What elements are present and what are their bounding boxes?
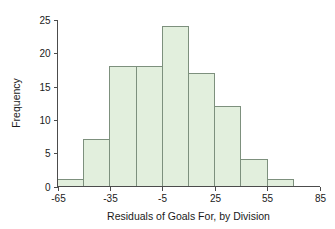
histogram-bar (267, 180, 293, 187)
y-tick-label: 15 (39, 82, 51, 93)
y-axis-title: Frequency (10, 77, 22, 127)
x-tick-label: -65 (51, 193, 66, 204)
histogram-bar (84, 140, 110, 187)
histogram-bar (162, 27, 188, 187)
x-tick-label: 55 (262, 193, 274, 204)
x-tick-label: 85 (315, 193, 327, 204)
histogram-bar (110, 67, 136, 187)
y-tick-label: 25 (39, 15, 51, 26)
y-tick-label: 10 (39, 115, 51, 126)
histogram-bar (189, 73, 215, 186)
histogram-bar (58, 180, 84, 187)
y-tick-label: 5 (45, 148, 51, 159)
histogram-figure: 0510152025 -65-35-5255585 Residuals of G… (0, 0, 335, 229)
histogram-bar (241, 160, 267, 187)
histogram-plot: 0510152025 -65-35-5255585 Residuals of G… (0, 0, 335, 229)
y-tick-label: 20 (39, 48, 51, 59)
x-tick-label: 25 (210, 193, 222, 204)
x-tick-label: -35 (103, 193, 118, 204)
y-tick-label: 0 (45, 182, 51, 193)
histogram-bar (215, 107, 241, 187)
histogram-bar (136, 67, 162, 187)
x-tick-label: -5 (158, 193, 167, 204)
x-axis-title: Residuals of Goals For, by Division (107, 210, 270, 222)
